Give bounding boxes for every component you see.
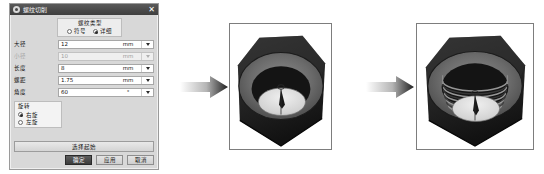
param-row-length: 长度 8 mm	[10, 63, 158, 73]
param-value: 12	[59, 41, 115, 47]
radio-rotation-left[interactable]: 左旋	[18, 119, 58, 125]
thread-type-group: 螺纹类型 符号 详细	[57, 18, 122, 37]
radio-thread-type-detailed[interactable]: 详细	[93, 28, 112, 34]
hex-nut-threaded	[417, 24, 533, 149]
param-value: 8	[59, 65, 115, 71]
hex-nut-unthreaded-panel	[229, 23, 332, 150]
param-label: 长度	[14, 64, 58, 72]
parameter-rows: 大径 12 mm 小径 10 mm 长度	[10, 39, 158, 99]
chevron-down-icon[interactable]	[141, 89, 153, 96]
param-unit: mm	[115, 53, 141, 59]
minor-diameter-field: 10 mm	[58, 52, 154, 61]
arrow-right-2	[366, 76, 414, 98]
param-row-angle: 角度 60 °	[10, 87, 158, 97]
chevron-down-icon	[141, 53, 153, 60]
param-row-pitch: 螺距 1.75 mm	[10, 75, 158, 85]
param-label: 大径	[14, 40, 58, 48]
rotation-group: 旋转 右旋 左旋	[14, 101, 62, 128]
radio-thread-type-symbol[interactable]: 符号	[67, 28, 86, 34]
radio-label: 符号	[74, 28, 86, 34]
angle-field[interactable]: 60 °	[58, 88, 154, 97]
radio-rotation-right[interactable]: 右旋	[18, 112, 58, 118]
radio-dot-icon	[18, 120, 23, 125]
length-field[interactable]: 8 mm	[58, 64, 154, 73]
major-diameter-field[interactable]: 12 mm	[58, 40, 154, 49]
hex-nut-unthreaded	[230, 24, 331, 149]
param-label: 小径	[14, 52, 58, 60]
gear-icon	[13, 6, 20, 13]
param-value: 10	[59, 53, 115, 59]
radio-dot-icon-selected	[93, 29, 98, 34]
dialog-title: 螺纹切削	[23, 4, 47, 15]
param-row-minor-diameter: 小径 10 mm	[10, 51, 158, 61]
hex-nut-threaded-panel	[416, 23, 534, 150]
dialog-button-row: 确定 应用 取消	[65, 155, 154, 165]
param-label: 螺距	[14, 76, 58, 84]
radio-label: 详细	[100, 28, 112, 34]
param-unit: mm	[115, 41, 141, 47]
close-icon[interactable]: ✕	[148, 4, 155, 15]
chevron-down-icon[interactable]	[141, 65, 153, 72]
param-value: 1.75	[59, 77, 115, 83]
thread-cut-dialog: 螺纹切削 ✕ 螺纹类型 符号 详细	[9, 3, 159, 170]
thread-type-options: 符号 详细	[60, 28, 119, 34]
radio-label: 右旋	[26, 112, 38, 118]
chevron-down-icon[interactable]	[141, 41, 153, 48]
pitch-field[interactable]: 1.75 mm	[58, 76, 154, 85]
cancel-button[interactable]: 取消	[127, 155, 154, 165]
ok-button-label: 确定	[73, 156, 85, 164]
dialog-body: 螺纹类型 符号 详细 大径 12	[10, 15, 158, 169]
select-start-button-label: 选择起始	[72, 143, 96, 151]
select-start-button[interactable]: 选择起始	[14, 141, 154, 152]
apply-button[interactable]: 应用	[96, 155, 123, 165]
radio-dot-icon	[67, 29, 72, 34]
ok-button[interactable]: 确定	[65, 155, 92, 165]
radio-label: 左旋	[26, 119, 38, 125]
thread-type-group-label: 螺纹类型	[60, 20, 119, 27]
param-unit: mm	[115, 65, 141, 71]
param-unit: mm	[115, 77, 141, 83]
arrow-right-1	[180, 76, 228, 98]
screenshot-root: 螺纹切削 ✕ 螺纹类型 符号 详细	[0, 0, 544, 174]
param-unit: °	[115, 89, 141, 95]
param-row-major-diameter: 大径 12 mm	[10, 39, 158, 49]
cancel-button-label: 取消	[135, 156, 147, 164]
rotation-group-label: 旋转	[18, 103, 58, 110]
apply-button-label: 应用	[104, 156, 116, 164]
param-label: 角度	[14, 88, 58, 96]
dialog-titlebar[interactable]: 螺纹切削 ✕	[10, 4, 158, 15]
param-value: 60	[59, 89, 115, 95]
radio-dot-icon-selected	[18, 112, 23, 117]
chevron-down-icon[interactable]	[141, 77, 153, 84]
